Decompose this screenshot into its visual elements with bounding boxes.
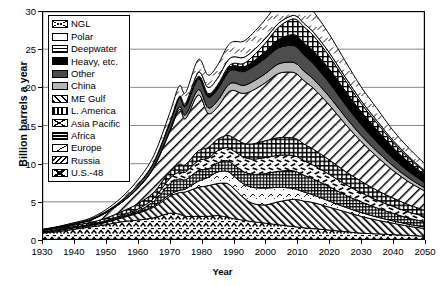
legend-swatch-icon (52, 107, 68, 115)
legend-item-label: China (71, 81, 96, 91)
legend-swatch-icon (52, 82, 68, 90)
legend-swatch-icon (52, 132, 68, 140)
legend-item-label: NGL (71, 19, 91, 29)
legend-swatch-icon (52, 57, 68, 65)
y-tick-label: 0 (10, 235, 36, 246)
legend-swatch-icon (52, 144, 68, 152)
legend-item: Africa (51, 130, 127, 142)
legend-item: Polar (51, 30, 127, 42)
x-tick-mark (74, 240, 75, 244)
x-tick-mark (170, 240, 171, 244)
legend-item: Russia (51, 154, 127, 166)
x-tick-mark (393, 240, 394, 244)
y-tick-label: 20 (10, 82, 36, 93)
legend-swatch-icon (52, 95, 68, 103)
x-axis-title: Year (0, 266, 445, 277)
legend-item-label: Europe (71, 143, 102, 153)
legend-item: U.S.-48 (51, 167, 127, 179)
legend-item-label: Other (71, 69, 95, 79)
legend-item-label: Polar (71, 32, 93, 42)
legend-item-label: Africa (71, 131, 95, 141)
legend-swatch-icon (52, 156, 68, 164)
legend-item-label: Deepwater (71, 44, 117, 54)
y-tick-label: 5 (10, 197, 36, 208)
y-tick-label: 10 (10, 159, 36, 170)
legend-swatch-icon (52, 119, 68, 127)
legend-item-label: Asia Pacific (71, 119, 120, 129)
legend-item-label: U.S.-48 (71, 168, 103, 178)
legend-swatch-icon (52, 33, 68, 41)
x-tick-mark (265, 240, 266, 244)
legend-swatch-icon (52, 70, 68, 78)
legend-item-label: Russia (71, 156, 100, 166)
legend-item: L. America (51, 105, 127, 117)
legend-item: Deepwater (51, 43, 127, 55)
y-tick-label: 25 (10, 44, 36, 55)
x-tick-mark (297, 240, 298, 244)
legend-item-label: ME Gulf (71, 94, 105, 104)
x-tick-mark (106, 240, 107, 244)
legend-item: Asia Pacific (51, 117, 127, 129)
y-tick-label: 15 (10, 121, 36, 132)
legend-swatch-icon (52, 20, 68, 28)
x-tick-mark (234, 240, 235, 244)
x-tick-mark (425, 240, 426, 244)
x-tick-mark (42, 240, 43, 244)
chart-container: Billion barrels a year 05101520253019301… (0, 0, 445, 286)
legend-swatch-icon (52, 169, 68, 177)
x-tick-label: 2050 (405, 246, 445, 257)
y-tick-label: 30 (10, 6, 36, 17)
legend-swatch-icon (52, 45, 68, 53)
legend-item: ME Gulf (51, 92, 127, 104)
legend-item: Europe (51, 142, 127, 154)
legend-item: Other (51, 68, 127, 80)
x-tick-mark (329, 240, 330, 244)
x-tick-mark (361, 240, 362, 244)
legend-item: China (51, 80, 127, 92)
legend-item-label: L. America (71, 106, 116, 116)
legend-item-label: Heavy, etc. (71, 57, 118, 67)
legend-item: Heavy, etc. (51, 55, 127, 67)
x-tick-mark (138, 240, 139, 244)
legend: NGLPolarDeepwaterHeavy, etc.OtherChinaME… (48, 15, 130, 182)
legend-item: NGL (51, 18, 127, 30)
x-tick-mark (202, 240, 203, 244)
